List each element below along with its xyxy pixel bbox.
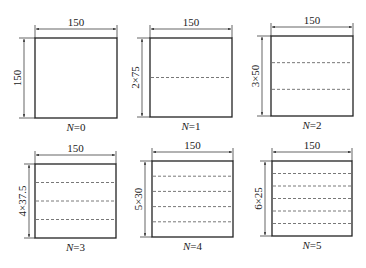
height-dimension-label: 5×30 [132, 187, 144, 210]
height-dimension-label: 2×75 [129, 66, 141, 89]
panel-caption: N=2 [301, 119, 321, 131]
height-dimension-label: 150 [11, 69, 23, 86]
panel-n0: 150150N=0 [11, 16, 117, 133]
caption-value: =1 [189, 120, 201, 132]
panel-caption: N=4 [182, 240, 203, 252]
width-dimension-label: 150 [68, 16, 85, 28]
layered-specimen-diagram: 150150N=01502×75N=11503×50N=21504×37.5N=… [0, 0, 366, 268]
panel-caption: N=5 [301, 239, 322, 251]
height-dimension-label: 3×50 [249, 64, 261, 87]
caption-value: =0 [74, 121, 86, 133]
panel-n4: 1505×30N=4 [132, 139, 233, 252]
width-dimension-label: 150 [304, 14, 321, 26]
panel-n1: 1502×75N=1 [129, 16, 232, 132]
caption-value: =2 [310, 119, 322, 131]
panel-caption: N=3 [65, 241, 86, 253]
width-dimension-label: 150 [183, 16, 200, 28]
width-dimension-label: 150 [184, 139, 201, 151]
specimen-outline [152, 161, 233, 237]
panel-n3: 1504×37.5N=3 [16, 142, 116, 253]
caption-value: =3 [73, 241, 85, 253]
specimen-outline [35, 38, 117, 118]
panel-n5: 1506×25N=5 [252, 139, 352, 251]
width-dimension-label: 150 [304, 139, 321, 151]
height-dimension-label: 4×37.5 [16, 185, 28, 216]
caption-value: =5 [310, 239, 322, 251]
caption-value: =4 [190, 240, 202, 252]
panel-caption: N=0 [65, 121, 86, 133]
height-dimension-label: 6×25 [252, 187, 264, 210]
specimen-outline [271, 36, 353, 116]
panel-n2: 1503×50N=2 [249, 14, 353, 131]
panel-caption: N=1 [180, 120, 200, 132]
width-dimension-label: 150 [67, 142, 84, 154]
